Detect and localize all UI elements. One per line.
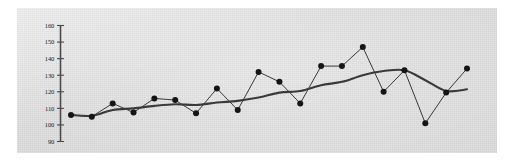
- y-axis-tick-labels: 16015014013012011010090: [45, 22, 54, 145]
- data-point-marker: [89, 114, 95, 120]
- data-point-marker: [464, 66, 470, 72]
- y-axis-tick-label: 90: [48, 138, 54, 145]
- chart-figure: 16015014013012011010090: [0, 0, 512, 162]
- y-axis-tick-label: 140: [45, 55, 54, 62]
- y-axis-tick-label: 110: [45, 105, 54, 112]
- chart-canvas: 16015014013012011010090: [0, 0, 512, 162]
- data-point-marker: [401, 67, 407, 73]
- y-axis-tick-label: 120: [45, 88, 54, 95]
- y-axis-tick-label: 160: [45, 22, 54, 29]
- series-observed-markers: [68, 44, 470, 126]
- data-point-marker: [422, 120, 428, 126]
- y-axis-tick-label: 130: [45, 72, 54, 79]
- data-point-marker: [339, 63, 345, 69]
- data-point-marker: [443, 90, 449, 96]
- data-point-marker: [193, 110, 199, 116]
- data-point-marker: [381, 89, 387, 95]
- y-axis-tick-label: 100: [45, 121, 54, 128]
- data-point-marker: [297, 100, 303, 106]
- data-point-marker: [151, 95, 157, 101]
- data-point-marker: [276, 79, 282, 85]
- data-point-marker: [235, 107, 241, 113]
- data-point-marker: [110, 100, 116, 106]
- y-axis-tick-label: 150: [45, 38, 54, 45]
- data-point-marker: [360, 44, 366, 50]
- y-axis: 16015014013012011010090: [45, 22, 64, 145]
- data-point-marker: [68, 112, 74, 118]
- data-point-marker: [214, 85, 220, 91]
- data-point-marker: [318, 63, 324, 69]
- data-point-marker: [172, 97, 178, 103]
- data-point-marker: [131, 110, 137, 116]
- series-observed-line: [71, 47, 467, 123]
- data-point-marker: [256, 69, 262, 75]
